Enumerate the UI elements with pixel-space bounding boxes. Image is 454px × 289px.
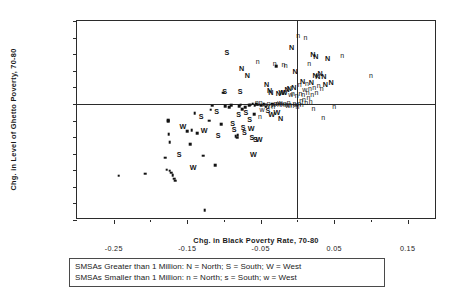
y-tick: [73, 187, 77, 188]
data-point-N: N: [313, 53, 318, 60]
x-tick-label: -0.05: [237, 244, 285, 253]
x-tick: [408, 220, 409, 224]
y-axis-title-text: Chg. in Level of Ghetto Poverty, 70-80: [9, 48, 18, 190]
data-point-S: S: [236, 111, 241, 118]
data-point-n: n: [315, 88, 319, 95]
data-point-N: N: [268, 88, 273, 95]
data-point-s: [168, 141, 171, 144]
y-tick: [73, 137, 77, 138]
x-tick-label: -0.15: [163, 244, 211, 253]
legend-box: SMSAs Greater than 1 Million: N = North;…: [69, 258, 385, 287]
legend-row-small-smsa: SMSAs Smaller than 1 Million: n = North;…: [75, 272, 379, 283]
y-tick: [73, 170, 77, 171]
data-point-S: S: [216, 132, 221, 139]
data-point-N: N: [321, 73, 326, 80]
y-tick: [73, 87, 77, 88]
data-point-s: [144, 172, 147, 175]
data-point-s: [193, 112, 196, 115]
x-tick-minor: [371, 220, 372, 222]
data-point-s: [275, 65, 278, 68]
y-tick: [73, 220, 77, 221]
scatter-plot-figure: Chg. in Level of Ghetto Poverty, 70-80 S…: [0, 0, 454, 289]
data-point-s: [240, 103, 243, 106]
data-point-s: [214, 164, 217, 167]
data-point-S: S: [242, 128, 247, 135]
data-point-s: [230, 104, 233, 107]
y-tick: [73, 71, 77, 72]
y-tick: [73, 104, 77, 105]
data-point-s: [164, 157, 167, 160]
data-point-n: n: [312, 104, 316, 111]
x-tick: [114, 220, 115, 224]
x-tick-label: 0.15: [384, 244, 432, 253]
data-point-n: n: [256, 58, 260, 65]
data-point-s: [174, 179, 177, 182]
data-point-S: S: [232, 126, 237, 133]
data-point-s: [224, 105, 227, 108]
data-point-N: N: [289, 43, 294, 50]
data-point-n: n: [296, 32, 300, 39]
data-point-N: N: [245, 71, 250, 78]
data-point-s: [189, 143, 192, 146]
data-point-W: W: [179, 122, 186, 129]
data-point-s: [237, 134, 240, 137]
data-point-s: [118, 175, 121, 178]
data-point-s: [220, 123, 223, 126]
x-tick-minor: [224, 220, 225, 222]
plot-area: SWWSWSSSSSSSSNSSSNSWSWSnnWnnwnNwSnNnNWnw…: [76, 20, 436, 219]
data-point-s: [208, 120, 211, 123]
data-point-s: [253, 113, 256, 116]
y-tick: [73, 154, 77, 155]
x-tick-label: -0.25: [90, 244, 138, 253]
data-point-s: [204, 209, 207, 212]
data-point-n: n: [304, 34, 308, 41]
x-tick: [334, 220, 335, 224]
data-point-s: [209, 108, 212, 111]
data-point-s: [211, 104, 214, 107]
y-tick: [73, 121, 77, 122]
data-point-n: n: [340, 52, 344, 59]
y-tick: [73, 203, 77, 204]
data-point-N: N: [278, 115, 283, 122]
data-point-W: W: [248, 124, 255, 131]
data-point-n: n: [258, 113, 262, 120]
x-axis-title: Chg. in Black Poverty Rate, 70-80: [76, 236, 436, 245]
data-point-s: [167, 119, 170, 122]
data-point-n: n: [369, 71, 373, 78]
data-point-S: S: [222, 87, 227, 94]
data-point-W: W: [201, 127, 208, 134]
data-point-S: S: [199, 113, 204, 120]
data-point-N: N: [325, 55, 330, 62]
data-point-W: W: [190, 164, 197, 171]
data-point-N: N: [329, 79, 334, 86]
data-point-N: N: [323, 81, 328, 88]
x-tick: [187, 220, 188, 224]
data-layer: SWWSWSSSSSSSSNSSSNSWSWSnnWnnwnNwSnNnNWnw…: [77, 21, 435, 218]
x-tick-minor: [297, 220, 298, 222]
y-tick: [73, 54, 77, 55]
data-point-n: n: [332, 102, 336, 109]
data-point-n: n: [284, 62, 288, 69]
data-point-S: S: [247, 115, 252, 122]
data-point-N: N: [239, 64, 244, 71]
data-point-S: S: [177, 150, 182, 157]
data-point-N: N: [293, 67, 298, 74]
data-point-W: W: [256, 136, 263, 143]
data-point-n: n: [307, 59, 311, 66]
x-zero-reference-line: [297, 21, 298, 218]
data-point-s: [168, 133, 171, 136]
data-point-S: S: [224, 49, 229, 56]
x-tick-minor: [150, 220, 151, 222]
y-tick: [73, 38, 77, 39]
data-point-n: n: [310, 90, 314, 97]
y-axis-title: Chg. in Level of Ghetto Poverty, 70-80: [6, 20, 20, 219]
data-point-N: N: [291, 84, 296, 91]
data-point-s: [196, 132, 199, 135]
data-point-s: [171, 174, 174, 177]
x-tick-label: 0.05: [310, 244, 358, 253]
data-point-S: S: [238, 87, 243, 94]
data-point-s: [190, 129, 193, 132]
data-point-W: W: [250, 150, 257, 157]
legend-row-large-smsa: SMSAs Greater than 1 Million: N = North;…: [75, 261, 379, 272]
data-point-S: S: [214, 107, 219, 114]
